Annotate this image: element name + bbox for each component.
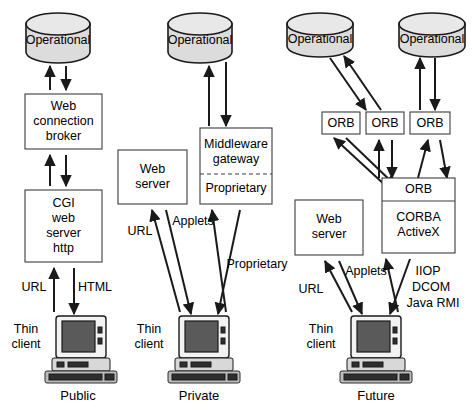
column-public: Operational Web connection broker CGI we… xyxy=(11,13,117,403)
node-sub-line-1: CORBA xyxy=(396,210,441,224)
node-line-1: Web xyxy=(140,162,166,176)
node-sub-line-2: ActiveX xyxy=(397,225,440,239)
datastore-label: Operational xyxy=(168,33,233,47)
datastore-operational-future-left: Operational xyxy=(287,13,353,57)
thin-client-label-1: Thin xyxy=(137,322,161,336)
column-private: Operational Middleware gateway Proprieta… xyxy=(118,13,288,403)
edge-store-left-to-orb2 xyxy=(330,58,366,110)
edge-label-url: URL xyxy=(127,224,152,238)
column-future: Operational Operational ORB ORB xyxy=(287,13,465,403)
node-line-3: broker xyxy=(46,129,81,143)
node-line-1: Web xyxy=(316,212,342,226)
node-line-1: ORB xyxy=(405,182,432,196)
thin-client-label-1: Thin xyxy=(14,322,38,336)
thin-client-private: Thin client xyxy=(134,316,240,383)
node-orb-3: ORB xyxy=(410,112,450,134)
node-orb-2: ORB xyxy=(366,112,404,134)
thin-client-label-2: client xyxy=(134,337,164,351)
datastore-label: Operational xyxy=(26,33,91,47)
caption-future: Future xyxy=(357,388,395,403)
node-line-2: web xyxy=(51,211,75,225)
node-line-1: Web xyxy=(51,99,77,113)
node-orb-corba-activex: ORB CORBA ActiveX xyxy=(382,178,455,253)
caption-private: Private xyxy=(179,388,219,403)
edge-label-applets: Applets xyxy=(345,264,387,278)
edge-label-html: HTML xyxy=(78,280,112,294)
datastore-label: Operational xyxy=(288,32,353,46)
diagram-canvas: Operational Web connection broker CGI we… xyxy=(0,0,472,416)
edge-label-iiop: IIOP xyxy=(415,264,440,278)
node-web-server-private: Web server xyxy=(118,150,187,204)
thin-client-label-2: client xyxy=(306,337,336,351)
node-line-2: connection xyxy=(33,114,94,128)
node-sub-line-1: Proprietary xyxy=(205,181,267,195)
node-orb-1: ORB xyxy=(322,112,360,134)
edge-label-url: URL xyxy=(298,282,323,296)
edge-label-dcom: DCOM xyxy=(412,280,450,294)
datastore-operational-future-right: Operational xyxy=(399,13,465,57)
edge-client-to-orb xyxy=(386,259,398,312)
node-line-2: server xyxy=(312,227,347,241)
edge-label-proprietary: Proprietary xyxy=(226,257,288,271)
orb-label: ORB xyxy=(327,116,354,130)
thin-client-future: Thin client xyxy=(306,316,412,383)
edge-label-url: URL xyxy=(21,280,46,294)
node-line-3: server xyxy=(46,226,81,240)
architecture-diagram: Operational Web connection broker CGI we… xyxy=(0,0,472,416)
edge-label-java-rmi: Java RMI xyxy=(407,296,460,310)
thin-client-label-2: client xyxy=(11,337,41,351)
node-middleware-gateway: Middleware gateway Proprietary xyxy=(200,128,272,204)
node-line-1: CGI xyxy=(52,196,74,210)
orb-label: ORB xyxy=(416,116,443,130)
datastore-operational-private: Operational xyxy=(168,13,233,63)
node-cgi-web-server-http: CGI web server http xyxy=(25,190,102,262)
thin-client-label-1: Thin xyxy=(309,322,333,336)
edge-orb2-to-store-left xyxy=(344,56,381,110)
node-line-2: server xyxy=(135,177,170,191)
node-line-2: gateway xyxy=(213,152,260,166)
edge-bus-to-orb3 xyxy=(418,140,428,178)
datastore-label: Operational xyxy=(400,32,465,46)
edge-label-applets: Applets xyxy=(172,214,214,228)
edge-client-to-middleware xyxy=(212,210,226,312)
datastore-operational-public: Operational xyxy=(26,13,91,63)
caption-public: Public xyxy=(60,388,96,403)
node-line-4: http xyxy=(53,241,74,255)
thin-client-public: Thin client xyxy=(11,316,117,383)
node-line-1: Middleware xyxy=(204,137,268,151)
node-web-server-future: Web server xyxy=(295,200,363,255)
orb-label: ORB xyxy=(371,116,398,130)
node-web-connection-broker: Web connection broker xyxy=(25,94,102,149)
edge-orb3-to-bus xyxy=(440,140,447,178)
